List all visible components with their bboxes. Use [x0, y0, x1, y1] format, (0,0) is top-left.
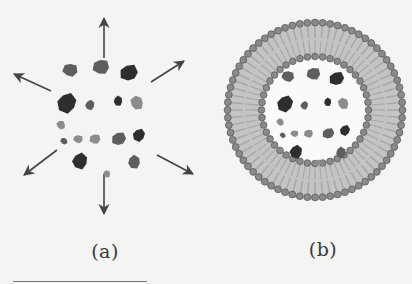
particle [93, 60, 109, 74]
particle-cluster-a [56, 60, 145, 177]
panel-a-label: (a) [91, 240, 119, 262]
panel-b-label: (b) [309, 238, 338, 260]
particle [73, 135, 83, 143]
arrow-icon [14, 74, 51, 91]
panel-a-dispersing-particles [14, 18, 193, 214]
arrow-icon [157, 155, 193, 174]
particle [57, 93, 76, 114]
arrow-icon [24, 150, 57, 175]
particle [114, 96, 122, 106]
particle [60, 138, 67, 145]
figure-canvas [0, 0, 412, 284]
particle [89, 134, 100, 143]
particle [85, 100, 94, 111]
particle [133, 129, 145, 142]
arrow-icon [151, 61, 184, 82]
particle [112, 133, 126, 146]
particle [62, 64, 77, 77]
particle [130, 96, 142, 110]
particle [72, 152, 87, 169]
outward-arrows [14, 18, 193, 214]
footnote-rule [13, 281, 147, 282]
particle [56, 121, 65, 130]
panel-b-vesicle [224, 19, 406, 201]
particle [128, 155, 139, 169]
particle [121, 65, 138, 81]
